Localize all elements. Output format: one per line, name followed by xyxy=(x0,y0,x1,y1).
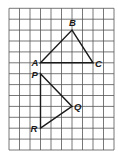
grid-diagram: ABCPQR xyxy=(0,0,118,158)
vertex-label-c: C xyxy=(95,58,102,69)
grid-canvas: ABCPQR xyxy=(0,0,118,158)
triangle-pqr xyxy=(41,74,73,129)
vertex-label-r: R xyxy=(31,123,38,134)
vertex-label-p: P xyxy=(32,69,39,80)
vertex-labels: ABCPQR xyxy=(31,17,103,134)
triangles xyxy=(41,30,94,128)
triangle-abc xyxy=(41,30,94,63)
vertex-label-q: Q xyxy=(74,101,82,112)
vertex-label-a: A xyxy=(31,57,39,68)
grid-lines xyxy=(9,8,114,150)
vertex-label-b: B xyxy=(69,17,76,28)
